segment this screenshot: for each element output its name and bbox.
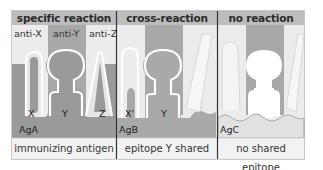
antigen-label-aga: AgA [19, 124, 38, 136]
panel-title-cross-reaction: cross-reaction [117, 11, 217, 25]
label-anti-z: anti-Z [89, 28, 117, 40]
epitope-y: Y [62, 108, 68, 120]
label-anti-x: anti-X [14, 28, 42, 40]
epitope-x-prime: X' [125, 108, 134, 120]
caption-immunizing-antigen: immunizing antigen [12, 139, 116, 158]
label-anti-y: anti-Y [53, 28, 79, 40]
antigen-label-agc: AgC [220, 124, 239, 136]
caption-epitope-y-shared: epitope Y shared [117, 139, 217, 158]
epitope-y-shared: Y [161, 108, 167, 120]
caption-no-shared-epitope: no shared epitope [218, 139, 304, 158]
antigen-label-agb: AgB [119, 124, 138, 136]
panel-title-specific-reaction: specific reaction [12, 11, 116, 25]
panel-title-no-reaction: no reaction [218, 11, 304, 25]
epitope-x: X [28, 108, 35, 120]
epitope-z: Z [99, 108, 106, 120]
